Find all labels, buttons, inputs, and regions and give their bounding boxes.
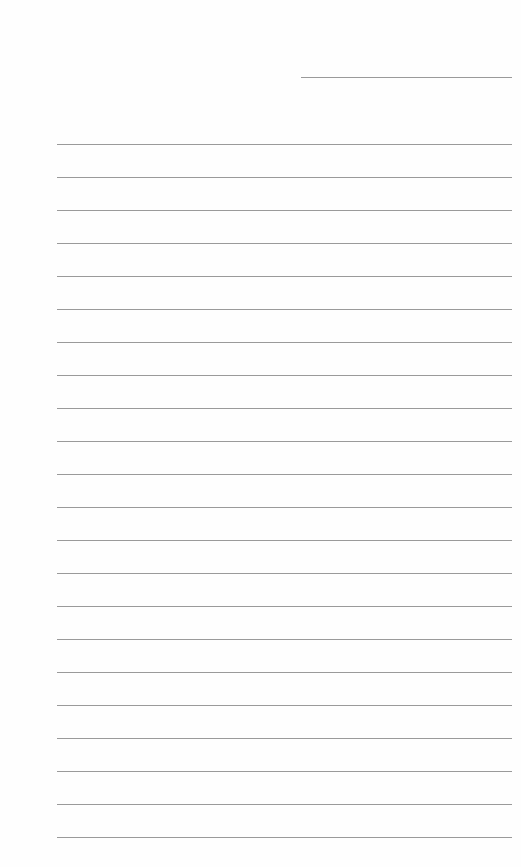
- ruled-line: [57, 540, 512, 541]
- ruled-line: [57, 573, 512, 574]
- ruled-line: [57, 309, 512, 310]
- ruled-line: [57, 672, 512, 673]
- ruled-line: [57, 243, 512, 244]
- ruled-line: [57, 804, 512, 805]
- ruled-line: [57, 408, 512, 409]
- ruled-line: [57, 837, 512, 838]
- ruled-line: [57, 474, 512, 475]
- ruled-line: [57, 276, 512, 277]
- lined-paper-page: [0, 0, 521, 867]
- ruled-line: [57, 375, 512, 376]
- ruled-line: [57, 705, 512, 706]
- ruled-line: [57, 639, 512, 640]
- ruled-line: [57, 606, 512, 607]
- ruled-line: [57, 507, 512, 508]
- ruled-line: [57, 342, 512, 343]
- ruled-lines: [57, 0, 512, 867]
- ruled-line: [57, 144, 512, 145]
- ruled-line: [57, 210, 512, 211]
- ruled-line: [57, 441, 512, 442]
- ruled-line: [57, 771, 512, 772]
- ruled-line: [57, 177, 512, 178]
- ruled-line: [57, 738, 512, 739]
